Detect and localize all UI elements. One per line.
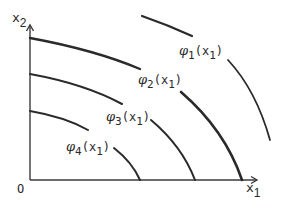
curve-phi1-label: φ1(x1) [179, 43, 223, 62]
x-axis-label: x1 [246, 180, 261, 200]
curve-phi4-label: φ4(x1) [66, 139, 110, 158]
curve-phi3-label: φ3(x1) [106, 109, 150, 128]
level-curves-diagram: O x2 x1 φ1(x1) φ2(x1) φ3(x1) φ4(x1) [0, 0, 284, 212]
curve-phi2-label: φ2(x1) [138, 72, 182, 91]
y-axis-label: x2 [12, 10, 27, 30]
origin-label: O [17, 182, 24, 196]
